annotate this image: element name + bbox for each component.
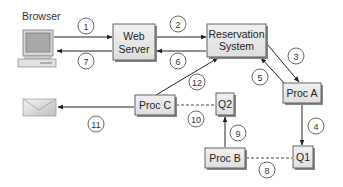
reservation-label-1: Reservation (208, 28, 264, 40)
arrow-12 (156, 58, 218, 95)
step-11: 11 (91, 120, 100, 130)
step-1: 1 (83, 22, 88, 32)
node-proc-b: Proc B (205, 148, 247, 170)
proc-c-label: Proc C (139, 99, 172, 111)
web-server-label-1: Web (123, 30, 145, 42)
computer-icon (18, 30, 56, 67)
web-server-label-2: Server (119, 43, 150, 55)
node-reservation-system: Reservation System (207, 24, 268, 59)
q1-label: Q1 (296, 151, 310, 163)
q2-label: Q2 (218, 98, 232, 110)
step-8: 8 (264, 166, 269, 176)
step-2: 2 (175, 20, 180, 30)
step-9: 9 (235, 129, 240, 139)
node-q2: Q2 (216, 93, 236, 117)
step-5: 5 (257, 73, 262, 83)
step-6: 6 (175, 57, 180, 67)
node-proc-c: Proc C (135, 95, 177, 117)
step-7: 7 (83, 57, 88, 67)
reservation-label-2: System (219, 40, 254, 52)
node-proc-a: Proc A (283, 83, 323, 105)
step-12: 12 (192, 78, 202, 88)
proc-b-label: Proc B (209, 152, 241, 164)
reservation-flow-diagram: Browser (0, 0, 343, 187)
step-4: 4 (313, 122, 318, 132)
browser-label: Browser (22, 10, 61, 22)
step-10: 10 (191, 115, 201, 125)
proc-a-label: Proc A (287, 87, 318, 99)
node-q1: Q1 (293, 146, 315, 170)
step-3: 3 (293, 52, 298, 62)
envelope-icon (23, 99, 56, 116)
node-web-server: Web Server (113, 24, 157, 62)
